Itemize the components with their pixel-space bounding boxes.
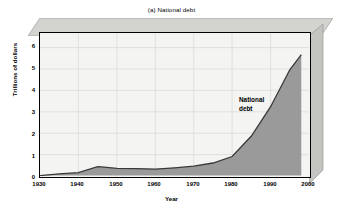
x-tick-label: 2000 — [293, 181, 323, 187]
x-tick-label: 1960 — [139, 181, 169, 187]
plot-area: National debt — [39, 32, 311, 178]
annotation-line-2: debt — [239, 105, 264, 114]
x-tick-label: 1990 — [255, 181, 285, 187]
y-tick-label: 3 — [19, 109, 35, 115]
x-tick-label: 1950 — [101, 181, 131, 187]
plot-canvas — [40, 33, 309, 176]
y-tick-label: 6 — [19, 43, 35, 49]
x-tick-label: 1980 — [216, 181, 246, 187]
y-tick-label: 1 — [19, 153, 35, 159]
x-tick-label: 1970 — [178, 181, 208, 187]
y-tick-label: 5 — [19, 65, 35, 71]
frame-right-bevel — [309, 24, 335, 184]
x-tick-label: 1930 — [24, 181, 54, 187]
chart-title: (a) National debt — [0, 6, 343, 13]
y-tick-label: 2 — [19, 131, 35, 137]
series-annotation: National debt — [239, 96, 264, 113]
x-axis-label: Year — [0, 195, 343, 202]
chart-figure: (a) National debt Trillions of dollars Y… — [0, 0, 343, 215]
y-tick-label: 4 — [19, 87, 35, 93]
y-tick-label: 0 — [19, 174, 35, 180]
series-area-national-debt — [40, 55, 301, 176]
x-tick-label: 1940 — [62, 181, 92, 187]
y-axis-label: Trillions of dollars — [11, 30, 18, 110]
annotation-line-1: National — [239, 96, 264, 105]
